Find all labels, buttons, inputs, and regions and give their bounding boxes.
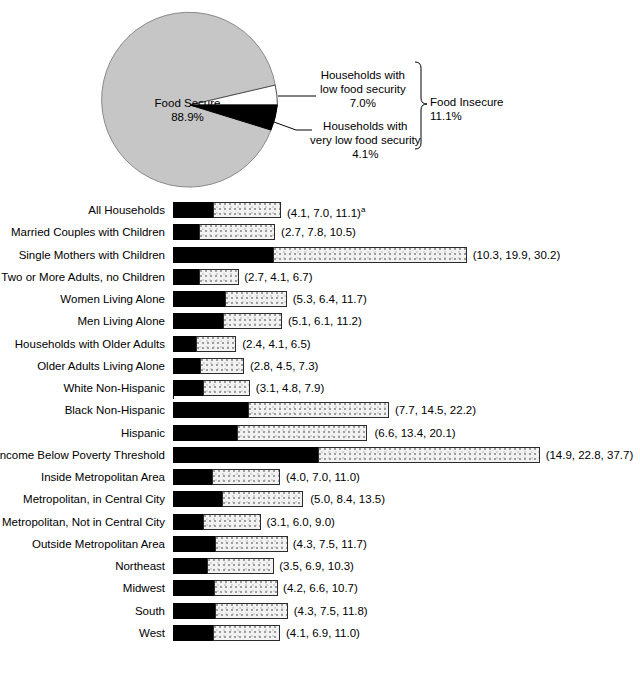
bar-row-label: White Non-Hispanic: [0, 380, 165, 396]
bar-segment-very-low-food-security: [173, 536, 215, 552]
bar-segment-low-food-security: [213, 625, 280, 641]
bar-row-label: Inside Metropolitan Area: [0, 469, 165, 485]
bar-value-label: (4.3, 7.5, 11.8): [294, 603, 368, 619]
bar-row: Married Couples with Children(2.7, 7.8, …: [173, 224, 275, 240]
bar-segment-low-food-security: [213, 202, 281, 218]
bar-segment-very-low-food-security: [173, 336, 196, 352]
bar-segment-low-food-security: [200, 358, 244, 374]
bar-value-label: (3.1, 4.8, 7.9): [256, 380, 324, 396]
callout-verylow-line2: very low food security: [310, 133, 421, 147]
bar-segment-low-food-security: [222, 491, 304, 507]
bar-row-label: Outside Metropolitan Area: [0, 536, 165, 552]
bar-segment-low-food-security: [203, 380, 250, 396]
bar-value-label: (4.1, 6.9, 11.0): [286, 625, 360, 641]
bar-row-label: Midwest: [0, 580, 165, 596]
footnote-marker: a: [361, 205, 365, 214]
bar-row-label: Income Below Poverty Threshold: [0, 447, 165, 463]
bar-segment-very-low-food-security: [173, 202, 213, 218]
bar-value-label: (4.3, 7.5, 11.7): [293, 536, 367, 552]
bar-row: Income Below Poverty Threshold(14.9, 22.…: [173, 447, 540, 463]
bar-segment-very-low-food-security: [173, 224, 199, 240]
bar-segment-low-food-security: [237, 425, 367, 441]
bar-segment-low-food-security: [214, 580, 278, 596]
bar-segment-low-food-security: [273, 247, 467, 263]
bar-row-label: Metropolitan, Not in Central City: [0, 514, 165, 530]
bar-segment-very-low-food-security: [173, 313, 223, 329]
bar-row: Northeast(3.5, 6.9, 10.3): [173, 558, 273, 574]
bar-segment-low-food-security: [223, 313, 282, 329]
bar-chart-section: All Households(4.1, 7.0, 11.1)aMarried C…: [0, 195, 640, 686]
bar-value-label: (2.7, 4.1, 6.7): [244, 269, 312, 285]
bar-row-label: Older Adults Living Alone: [0, 358, 165, 374]
bar-segment-very-low-food-security: [173, 291, 225, 307]
bar-row-label: All Households: [0, 202, 165, 218]
bar-row: White Non-Hispanic(3.1, 4.8, 7.9): [173, 380, 250, 396]
bar-value-label: (6.6, 13.4, 20.1): [374, 425, 455, 441]
bar-value-label: (5.1, 6.1, 11.2): [288, 313, 362, 329]
bar-segment-very-low-food-security: [173, 425, 237, 441]
bar-segment-low-food-security: [215, 536, 288, 552]
bar-value-label: (10.3, 19.9, 30.2): [473, 247, 561, 263]
bar-row-label: Metropolitan, in Central City: [0, 491, 165, 507]
bar-row-label: Women Living Alone: [0, 291, 165, 307]
bar-row: Midwest(4.2, 6.6, 10.7): [173, 580, 277, 596]
bar-segment-low-food-security: [203, 514, 261, 530]
bar-segment-low-food-security: [196, 336, 236, 352]
callout-very-low-food-security: Households with very low food security 4…: [310, 119, 421, 161]
callout-low-line1: Households with: [320, 68, 406, 82]
pie-center-label-text: Food Secure: [140, 96, 235, 110]
bar-segment-low-food-security: [199, 224, 275, 240]
bar-segment-low-food-security: [215, 603, 288, 619]
callout-low-value: 7.0%: [320, 96, 406, 110]
callout-verylow-line1: Households with: [310, 119, 421, 133]
bar-row: Two or More Adults, no Children(2.7, 4.1…: [173, 269, 238, 285]
bar-value-label: (3.1, 6.0, 9.0): [267, 514, 335, 530]
bar-segment-low-food-security: [318, 447, 540, 463]
bar-row-label: South: [0, 603, 165, 619]
callout-verylow-value: 4.1%: [310, 147, 421, 161]
bar-row: South(4.3, 7.5, 11.8): [173, 603, 288, 619]
bar-row-label: Hispanic: [0, 425, 165, 441]
bar-row: Hispanic(6.6, 13.4, 20.1): [173, 425, 368, 441]
bar-value-label: (5.0, 8.4, 13.5): [310, 491, 385, 507]
bar-segment-very-low-food-security: [173, 358, 200, 374]
callout-insecure-label: Food Insecure: [430, 95, 504, 109]
bar-row-label: Men Living Alone: [0, 313, 165, 329]
bar-segment-low-food-security: [225, 291, 287, 307]
bar-row-label: Married Couples with Children: [0, 224, 165, 240]
callout-low-food-security: Households with low food security 7.0%: [320, 68, 406, 110]
bar-value-label: (3.5, 6.9, 10.3): [279, 558, 354, 574]
bar-row: Women Living Alone(5.3, 6.4, 11.7): [173, 291, 287, 307]
bar-segment-very-low-food-security: [173, 514, 203, 530]
bar-segment-very-low-food-security: [173, 603, 215, 619]
bar-segment-low-food-security: [199, 269, 239, 285]
bar-plot-area: All Households(4.1, 7.0, 11.1)aMarried C…: [173, 202, 562, 625]
bar-row-label: West: [0, 625, 165, 641]
bar-row: Outside Metropolitan Area(4.3, 7.5, 11.7…: [173, 536, 287, 552]
bar-row: Inside Metropolitan Area(4.0, 7.0, 11.0): [173, 469, 280, 485]
bar-row-label: Black Non-Hispanic: [0, 402, 165, 418]
callout-insecure-value: 11.1%: [430, 109, 504, 123]
bar-segment-very-low-food-security: [173, 269, 199, 285]
pie-center-label-value: 88.9%: [140, 110, 235, 124]
bar-value-label: (4.1, 7.0, 11.1)a: [287, 202, 365, 221]
pie-center-label: Food Secure 88.9%: [140, 96, 235, 124]
bar-row: Men Living Alone(5.1, 6.1, 11.2): [173, 313, 282, 329]
bar-row: Metropolitan, in Central City(5.0, 8.4, …: [173, 491, 304, 507]
bar-segment-low-food-security: [207, 558, 274, 574]
bar-value-label: (4.2, 6.6, 10.7): [283, 580, 358, 596]
bar-row: Older Adults Living Alone(2.8, 4.5, 7.3): [173, 358, 244, 374]
bar-row-label: Two or More Adults, no Children: [0, 269, 165, 285]
bar-value-label: (2.7, 7.8, 10.5): [281, 224, 356, 240]
bar-row-label: Households with Older Adults: [0, 336, 165, 352]
bar-row-label: Single Mothers with Children: [0, 247, 165, 263]
bar-segment-very-low-food-security: [173, 380, 203, 396]
bar-segment-very-low-food-security: [173, 247, 273, 263]
bar-row: All Households(4.1, 7.0, 11.1)a: [173, 202, 281, 218]
bar-value-label: (2.8, 4.5, 7.3): [250, 358, 318, 374]
bar-segment-low-food-security: [212, 469, 280, 485]
bar-segment-very-low-food-security: [173, 580, 214, 596]
bar-segment-very-low-food-security: [173, 558, 207, 574]
bar-row: Households with Older Adults(2.4, 4.1, 6…: [173, 336, 236, 352]
bar-segment-low-food-security: [248, 402, 389, 418]
